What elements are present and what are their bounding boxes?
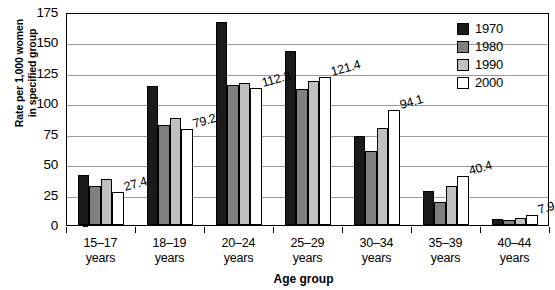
y-tick-label: 0 [22, 219, 58, 233]
bar-1980-1 [158, 125, 170, 225]
legend: 1970198019902000 [457, 20, 535, 92]
legend-swatch-icon [457, 59, 469, 71]
x-tick-mark [549, 227, 550, 233]
bar-1990-6 [515, 218, 527, 225]
legend-item-1990[interactable]: 1990 [457, 56, 535, 73]
x-tick-mark [342, 227, 343, 233]
bar-1980-0 [89, 186, 101, 225]
x-axis-title: Age group [0, 272, 555, 286]
bar-chart: Rate per 1,000 women in specified group … [0, 0, 555, 290]
x-axis-label: 20–24years [202, 236, 276, 266]
legend-label: 1980 [475, 39, 503, 54]
y-axis-ticks: 0255075100125150175 [22, 0, 58, 290]
x-axis-label: 35–39years [409, 236, 483, 266]
y-tick-mark [83, 226, 88, 227]
bar-2000-5 [457, 176, 469, 225]
bar-2000-2 [250, 88, 262, 225]
bar-group [285, 14, 331, 225]
bar-1970-1 [147, 86, 159, 225]
bar-1970-5 [423, 191, 435, 225]
bar-1980-6 [503, 220, 515, 225]
x-tick-mark [480, 227, 481, 233]
bar-1990-5 [446, 186, 458, 225]
legend-label: 2000 [475, 75, 503, 90]
bar-1990-0 [101, 179, 113, 225]
bar-2000-1 [181, 129, 193, 225]
y-tick-label: 50 [22, 158, 58, 172]
y-tick-label: 175 [22, 6, 58, 20]
bar-2000-0 [112, 192, 124, 225]
bar-1970-0 [78, 175, 90, 225]
x-axis-label: 18–19years [133, 236, 207, 266]
bar-2000-3 [319, 77, 331, 225]
bar-2000-4 [388, 110, 400, 225]
x-axis-label: 25–29years [271, 236, 345, 266]
x-tick-mark [135, 227, 136, 233]
y-tick-label: 125 [22, 67, 58, 81]
x-axis-label: 30–34years [340, 236, 414, 266]
bar-1990-1 [170, 118, 182, 225]
data-label: 7.9 [536, 199, 555, 217]
legend-label: 1970 [475, 21, 503, 36]
y-tick-label: 100 [22, 97, 58, 111]
bar-1970-4 [354, 136, 366, 225]
bar-1990-3 [308, 81, 320, 225]
y-tick-label: 150 [22, 36, 58, 50]
bar-group [78, 14, 124, 225]
x-tick-mark [273, 227, 274, 233]
x-tick-mark [66, 227, 67, 233]
legend-swatch-icon [457, 41, 469, 53]
bar-group [216, 14, 262, 225]
y-tick-label: 75 [22, 128, 58, 142]
bar-group [147, 14, 193, 225]
legend-item-2000[interactable]: 2000 [457, 74, 535, 91]
bar-1990-2 [239, 83, 251, 225]
bar-1990-4 [377, 128, 389, 225]
y-tick-label: 25 [22, 189, 58, 203]
bar-1980-3 [296, 89, 308, 225]
legend-label: 1990 [475, 57, 503, 72]
bar-2000-6 [526, 215, 538, 225]
legend-item-1980[interactable]: 1980 [457, 38, 535, 55]
x-axis-label: 15–17years [64, 236, 138, 266]
x-tick-mark [411, 227, 412, 233]
legend-item-1970[interactable]: 1970 [457, 20, 535, 37]
legend-swatch-icon [457, 23, 469, 35]
legend-swatch-icon [457, 77, 469, 89]
bar-1980-5 [434, 202, 446, 225]
x-tick-mark [204, 227, 205, 233]
bar-group [354, 14, 400, 225]
x-axis-label: 40–44years [478, 236, 552, 266]
bar-1980-4 [365, 151, 377, 225]
bar-1970-6 [492, 219, 504, 225]
bar-1980-2 [227, 85, 239, 225]
